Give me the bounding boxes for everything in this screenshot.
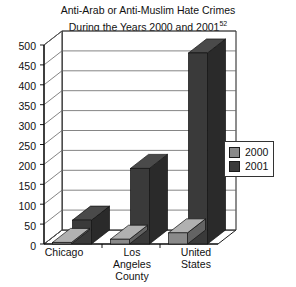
category-label-us-line-2: States	[160, 258, 232, 270]
category-label-la-line-2: Angeles	[96, 258, 168, 270]
hate-crimes-bar-chart: Anti-Arab or Anti-Muslim Hate Crimes Dur…	[0, 0, 296, 287]
chart-legend: 2000 2001	[224, 141, 274, 177]
category-label-united-states: United States	[160, 246, 232, 270]
legend-label-2001: 2001	[245, 161, 268, 171]
legend-swatch-2001	[229, 161, 240, 172]
legend-swatch-2000	[229, 147, 240, 158]
category-label-los-angeles-county: Los Angeles County	[96, 246, 168, 282]
legend-label-2000: 2000	[245, 147, 268, 157]
category-label-us-line-1: United	[160, 246, 232, 258]
category-label-chicago-line-1: Chicago	[28, 246, 100, 258]
legend-entry-2000: 2000	[229, 145, 268, 159]
category-label-la-line-1: Los	[96, 246, 168, 258]
category-label-chicago: Chicago	[28, 246, 100, 258]
category-label-la-line-3: County	[96, 270, 168, 282]
x-axis-category-labels: Chicago Los Angeles County United States	[0, 246, 296, 287]
legend-entry-2001: 2001	[229, 159, 268, 173]
